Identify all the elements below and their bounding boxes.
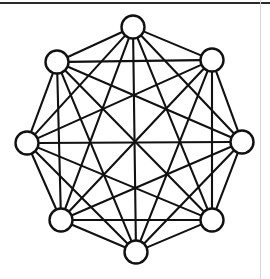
graph-edge — [67, 31, 124, 57]
graph-edge — [71, 146, 232, 216]
graph-node-n5 — [50, 209, 73, 232]
graph-node-n0 — [122, 16, 145, 39]
graph-node-n2 — [231, 131, 254, 154]
graph-edge — [143, 31, 202, 56]
graph-edge — [146, 224, 202, 248]
graph-edge — [65, 37, 130, 210]
graph-edge — [31, 72, 54, 133]
graph-node-n1 — [201, 49, 224, 72]
complete-graph-figure — [0, 0, 270, 279]
graph-edge — [216, 152, 238, 210]
graph-node-n4 — [125, 241, 148, 264]
page-root — [0, 0, 270, 279]
graph-node-n6 — [16, 132, 39, 155]
graph-svg-canvas — [0, 0, 270, 279]
graph-edge — [68, 60, 202, 62]
graph-edge — [216, 70, 239, 132]
graph-edge — [57, 73, 60, 210]
graph-node-n3 — [201, 209, 224, 232]
graph-node-n7 — [46, 51, 69, 74]
graph-edge — [71, 224, 126, 248]
